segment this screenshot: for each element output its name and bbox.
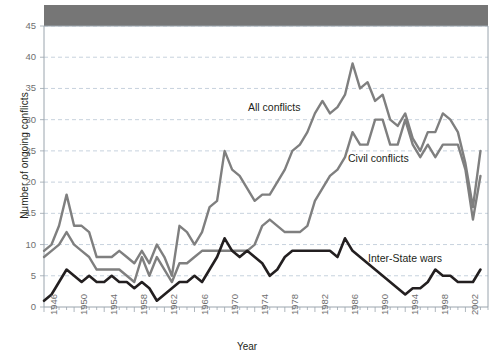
series-label-civil-conflicts: Civil conflicts: [348, 152, 409, 164]
y-tick-label: 35: [10, 82, 36, 93]
x-tick-label: 1946: [48, 294, 59, 315]
x-tick-label: 1954: [108, 294, 119, 315]
y-tick-label: 15: [10, 207, 36, 218]
x-tick-label: 1970: [229, 294, 240, 315]
x-tick-label: 1994: [409, 294, 420, 315]
x-axis-title: Year: [0, 341, 494, 352]
x-tick-label: 1958: [138, 294, 149, 315]
y-tick-label: 45: [10, 20, 36, 31]
y-tick-label: 0: [10, 301, 36, 312]
series-label-inter-state-wars: Inter-State wars: [368, 252, 442, 264]
y-tick-label: 5: [10, 270, 36, 281]
chart-page: Number of ongoing conflicts Year 0510152…: [0, 0, 494, 359]
series-label-all-conflicts: All conflicts: [248, 101, 301, 113]
top-gray-band: [44, 5, 488, 26]
y-tick-label: 10: [10, 239, 36, 250]
x-tick-label: 2002: [469, 294, 480, 315]
x-tick-label: 1966: [199, 294, 210, 315]
y-tick-label: 40: [10, 51, 36, 62]
x-tick-label: 1998: [439, 294, 450, 315]
x-tick-label: 1986: [349, 294, 360, 315]
x-tick-label: 1962: [168, 294, 179, 315]
y-tick-label: 20: [10, 176, 36, 187]
x-tick-label: 1974: [259, 294, 270, 315]
x-tick-label: 1950: [78, 294, 89, 315]
plot-background: [44, 26, 488, 307]
y-tick-label: 25: [10, 145, 36, 156]
y-tick-label: 30: [10, 114, 36, 125]
x-tick-label: 1982: [319, 294, 330, 315]
x-tick-label: 1978: [289, 294, 300, 315]
x-tick-label: 1990: [379, 294, 390, 315]
